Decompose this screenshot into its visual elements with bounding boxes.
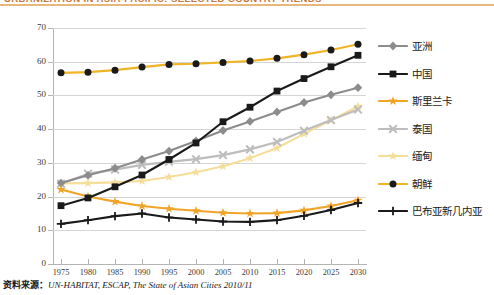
source-label: 资料来源： xyxy=(3,280,48,290)
x-axis-line xyxy=(53,264,367,265)
legend-marker-diamond-icon xyxy=(378,39,408,53)
source-note: 资料来源：UN-HABITAT, ESCAP, The State of Asi… xyxy=(3,278,253,291)
legend-item[interactable]: 朝鲜 xyxy=(378,176,494,204)
series-3 xyxy=(57,106,362,188)
y-tick-label: 10 xyxy=(24,224,46,234)
title-divider-rule xyxy=(0,4,494,6)
y-tick-label: 70 xyxy=(24,22,46,32)
y-tick-mark xyxy=(48,264,53,265)
legend-label: 中国 xyxy=(412,66,432,81)
legend-label: 亚洲 xyxy=(412,38,432,53)
legend-marker-circle-icon xyxy=(378,177,408,191)
y-tick-label: 40 xyxy=(24,123,46,133)
legend-item[interactable]: 泰国 xyxy=(378,121,494,149)
y-tick-label: 60 xyxy=(24,56,46,66)
legend-label: 巴布亚新几内亚 xyxy=(412,203,482,218)
legend-item[interactable]: 缅甸 xyxy=(378,148,494,176)
figure-root: URBANIZATION IN ASIA-PACIFIC: SELECTED C… xyxy=(0,0,494,295)
source-citation: UN-HABITAT, ESCAP, The State of Asian Ci… xyxy=(48,280,253,290)
legend-marker-star-icon xyxy=(378,94,408,108)
legend-label: 缅甸 xyxy=(412,148,432,163)
y-tick-label: 30 xyxy=(24,157,46,167)
legend-item[interactable]: 中国 xyxy=(378,66,494,94)
legend-marker-plus-icon xyxy=(378,204,408,218)
legend-label: 朝鲜 xyxy=(412,176,432,191)
chart-legend: 亚洲中国斯里兰卡泰国缅甸朝鲜巴布亚新几内亚 xyxy=(378,38,494,231)
legend-item[interactable]: 巴布亚新几内亚 xyxy=(378,203,494,231)
series-0 xyxy=(57,83,362,187)
y-tick-label: 20 xyxy=(24,191,46,201)
series-1 xyxy=(58,52,362,209)
legend-marker-x-icon xyxy=(378,122,408,136)
series-6 xyxy=(57,199,362,228)
series-4 xyxy=(56,101,363,187)
legend-label: 泰国 xyxy=(412,121,432,136)
chart-plot-area: 706050403020100 197519801985199019952000… xyxy=(0,10,380,262)
legend-item[interactable]: 亚洲 xyxy=(378,38,494,66)
x-tick-label: 2030 xyxy=(341,268,375,277)
y-tick-label: 0 xyxy=(24,258,46,268)
series-5 xyxy=(58,41,362,77)
y-tick-label: 50 xyxy=(24,89,46,99)
legend-marker-star-icon xyxy=(378,149,408,163)
legend-label: 斯里兰卡 xyxy=(412,93,452,108)
series-layer xyxy=(53,28,366,264)
legend-item[interactable]: 斯里兰卡 xyxy=(378,93,494,121)
figure-title: URBANIZATION IN ASIA-PACIFIC: SELECTED C… xyxy=(4,0,334,4)
legend-marker-square-icon xyxy=(378,67,408,81)
